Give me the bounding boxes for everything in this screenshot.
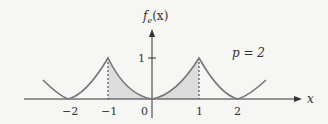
x-tick-label: 0 bbox=[141, 105, 148, 118]
fourier-even-extension-diagram: fe(x) x p = 2 1 −2 −1 0 1 2 bbox=[0, 0, 328, 124]
parameter-label: p = 2 bbox=[232, 46, 265, 60]
x-axis-arrow-icon bbox=[294, 96, 302, 102]
shaded-region bbox=[108, 58, 152, 99]
x-tick-label: −2 bbox=[62, 105, 78, 118]
y-axis-label: fe(x) bbox=[142, 9, 168, 25]
y-axis-arrow-icon bbox=[149, 29, 155, 37]
x-tick-label: −1 bbox=[101, 105, 117, 118]
function-curve bbox=[43, 58, 266, 99]
x-axis-label: x bbox=[307, 92, 314, 106]
shaded-region bbox=[152, 58, 199, 99]
x-tick-label: 2 bbox=[234, 105, 241, 118]
x-tick-label: 1 bbox=[196, 105, 203, 118]
y-tick-label: 1 bbox=[138, 52, 145, 65]
